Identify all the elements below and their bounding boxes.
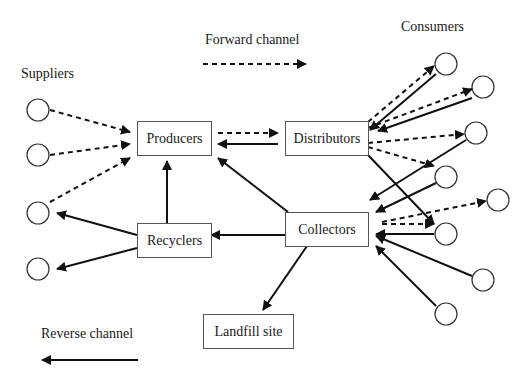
consumer-circle: [435, 166, 457, 188]
supplier-circle: [27, 202, 49, 224]
forward-channel-legend-label: Forward channel: [205, 32, 299, 48]
consumer-circle: [435, 223, 457, 245]
consumer-nodes: [435, 53, 509, 325]
supplier-circle: [27, 99, 49, 121]
consumer-circle: [472, 76, 494, 98]
consumer-circle: [472, 269, 494, 291]
consumers-label: Consumers: [401, 19, 464, 35]
producers-node: Producers: [137, 121, 212, 156]
consumer-circle: [465, 122, 487, 144]
recyclers-node: Recyclers: [137, 223, 212, 258]
supplier-nodes: [27, 99, 49, 280]
consumer-circle: [435, 303, 457, 325]
supplier-circle: [27, 258, 49, 280]
consumer-circle: [435, 53, 457, 75]
distributors-node: Distributors: [285, 121, 369, 156]
landfill-site-node: Landfill site: [203, 314, 294, 349]
supplier-circle: [27, 144, 49, 166]
reverse-channel-legend-label: Reverse channel: [41, 326, 133, 342]
suppliers-label: Suppliers: [21, 66, 74, 82]
collectors-node: Collectors: [285, 212, 369, 247]
consumer-circle: [487, 189, 509, 211]
